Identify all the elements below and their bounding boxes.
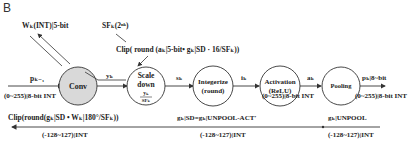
backward-formula-0: Clip(round(gₖ|SD • Wₖ|180°/SFₖ)) xyxy=(8,113,119,122)
scale-down-label2: down xyxy=(137,80,155,89)
scale-out-label: sₖ xyxy=(176,74,183,82)
backward-range-1: (-128~127)|INT xyxy=(200,131,246,139)
backward-formula-2: gₖ|UNPOOL xyxy=(328,114,367,122)
activation-label: Activation xyxy=(264,78,295,86)
sf-arrow xyxy=(116,34,126,42)
scale-frac-den: SFₖ xyxy=(142,98,151,103)
weight-in-arrow xyxy=(30,36,62,66)
clip-to-scale-arrow xyxy=(138,56,148,66)
output-range-label: (0~255)|8-bit INT xyxy=(355,92,407,100)
pooling-label: Pooling xyxy=(331,82,353,89)
activation-node xyxy=(260,66,300,106)
output-label: pₖ|8~bit xyxy=(362,74,387,82)
forward-clip-formula: Clip( round (aₖ|5-bit• gₖ|SD · 16/SFₖ)) xyxy=(116,45,240,54)
input-label: pₖ₋₁ xyxy=(30,74,44,83)
panel-label: B xyxy=(3,1,11,15)
input-range-label: (0~255)|8-bit INT xyxy=(4,92,56,100)
conv-out-label: yₖ xyxy=(106,72,114,80)
scale-frac-num: yₖ xyxy=(143,90,149,96)
act-range-label: (0~255)|8-bit INT xyxy=(262,92,314,100)
weight-grad-arrow xyxy=(38,34,70,64)
conv-label: Conv xyxy=(69,82,87,91)
integerize-label: Integerize xyxy=(198,78,228,86)
scale-down-label: Scale xyxy=(138,71,155,80)
act-out-label: aₖ xyxy=(307,74,315,82)
integerize-node xyxy=(193,66,233,106)
scale-factor-label: SFₖ(2ⁿᵏ) xyxy=(102,21,129,30)
backward-range-0: (-128~127)|INT xyxy=(42,131,88,139)
integerize-label2: (round) xyxy=(202,87,225,95)
integer-out-label: iₖ xyxy=(241,74,247,82)
backward-formula-1: gₖ|SD=gₖ|UNPOOL-ACT′ xyxy=(177,114,256,122)
backward-junction xyxy=(322,126,324,128)
quantization-dataflow-diagram: B Wₖ(INT)|5-bit SFₖ(2ⁿᵏ) Clip( round (aₖ… xyxy=(0,0,413,144)
backward-range-2: (-128~127)|INT xyxy=(328,131,374,139)
weight-input-label: Wₖ(INT)|5-bit xyxy=(22,21,69,30)
